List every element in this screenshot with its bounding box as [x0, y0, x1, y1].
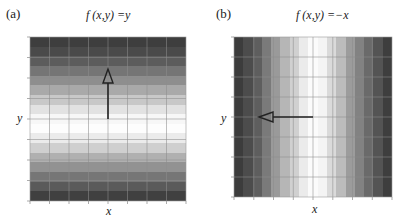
panel-b-xlabel: x — [312, 202, 317, 217]
panel-a-field — [30, 37, 186, 201]
panel-a-xlabel: x — [106, 204, 111, 219]
panel-b-title: f (x,y) =−x — [296, 8, 349, 23]
panel-a-title: f (x,y) =y — [86, 8, 130, 23]
panel-a-ylabel: y — [17, 111, 22, 126]
panel-a-label: (a) — [6, 6, 20, 22]
panel-b-ylabel: y — [221, 111, 226, 126]
panel-b-label: (b) — [216, 6, 231, 22]
panel-b-field — [234, 37, 392, 197]
